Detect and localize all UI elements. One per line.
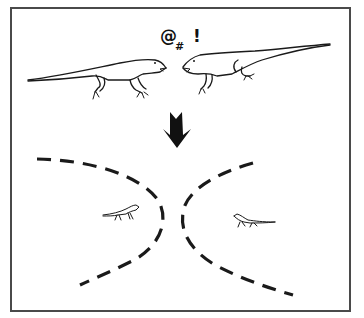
territory-diagram: @ # !	[0, 0, 364, 318]
hash-symbol: #	[175, 40, 184, 53]
bang-symbol: !	[193, 26, 201, 46]
